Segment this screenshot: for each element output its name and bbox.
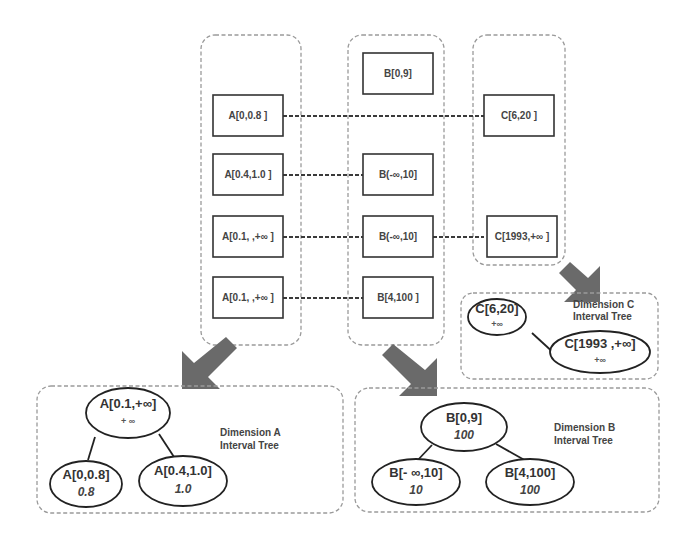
tree-b-left-node: B[- ∞,10] 10 <box>372 459 460 505</box>
column-a-item: A[0.1, ,+∞ ] <box>213 216 283 257</box>
column-c-item: C[6,20 ] <box>484 95 554 136</box>
column-c-item-label: C[6,20 ] <box>501 110 537 121</box>
tree-a-right-node: A[0.4,1.0] 1.0 <box>139 456 227 506</box>
tree-a-subtitle: Interval Tree <box>220 440 279 451</box>
node-value: +∞ <box>491 319 503 329</box>
arrow-down-right-icon <box>559 262 600 302</box>
node-value: 1.0 <box>175 482 192 496</box>
column-b-item: B(-∞,10] <box>363 154 433 195</box>
arrow-down-left-icon <box>182 337 237 389</box>
column-b-item: B[4,100 ] <box>363 277 433 318</box>
column-c-item-label: C[1993,+∞ ] <box>495 231 550 242</box>
node-value: 0.8 <box>78 485 95 499</box>
column-a-item: A[0.1, ,+∞ ] <box>213 277 283 318</box>
column-b-item: B(-∞,10] <box>363 216 433 257</box>
column-b-item: B[0,9] <box>363 53 433 94</box>
tree-b-subtitle: Interval Tree <box>554 435 613 446</box>
column-b-item-label: B[0,9] <box>384 68 412 79</box>
node-value: +∞ <box>594 355 606 365</box>
tree-a-title: Dimension A <box>220 427 281 438</box>
column-a-item-label: A[0,0.8 ] <box>229 110 268 121</box>
node-label: B[- ∞,10] <box>389 465 442 480</box>
node-value: 10 <box>409 483 423 497</box>
node-label: B[4,100] <box>505 465 556 480</box>
column-b-item-label: B(-∞,10] <box>379 231 417 242</box>
column-b-item-label: B[4,100 ] <box>377 292 419 303</box>
node-label: A[0,0.8] <box>63 467 110 482</box>
tree-a-root-node: A[0.1,+∞] + ∞ <box>86 388 170 438</box>
node-label: A[0.1,+∞] <box>100 396 157 411</box>
tree-b-root-node: B[0,9] 100 <box>421 403 507 451</box>
interval-tree-diagram: A[0,0.8 ] A[0.4,1.0 ] A[0.1, ,+∞ ] A[0.1… <box>0 0 694 540</box>
column-c-item: C[1993,+∞ ] <box>487 216 557 257</box>
node-value: 100 <box>454 428 474 442</box>
column-a-item-label: A[0.1, ,+∞ ] <box>222 292 274 303</box>
node-label: B[0,9] <box>446 410 482 425</box>
tree-b-right-node: B[4,100] 100 <box>486 459 574 505</box>
node-value: 100 <box>520 483 540 497</box>
column-a-item: A[0.4,1.0 ] <box>213 154 283 195</box>
node-value: + ∞ <box>121 416 136 426</box>
tree-a-edge-left <box>88 437 95 460</box>
column-a-item-label: A[0.4,1.0 ] <box>224 169 271 180</box>
tree-c-subtitle: Interval Tree <box>573 311 632 322</box>
node-label: C[1993 ,+∞] <box>564 336 635 351</box>
tree-c-root-node: C[6,20] +∞ <box>468 299 526 335</box>
tree-a-left-node: A[0,0.8] 0.8 <box>50 461 122 507</box>
column-a-item-label: A[0.1, ,+∞ ] <box>222 231 274 242</box>
tree-c-right-node: C[1993 ,+∞] +∞ <box>550 331 650 373</box>
tree-c-title: Dimension C <box>573 299 634 310</box>
node-label: A[0.4,1.0] <box>154 463 212 478</box>
node-label: C[6,20] <box>475 301 518 316</box>
column-b-item-label: B(-∞,10] <box>379 169 417 180</box>
column-a-item: A[0,0.8 ] <box>213 95 283 136</box>
tree-b-title: Dimension B <box>554 422 615 433</box>
